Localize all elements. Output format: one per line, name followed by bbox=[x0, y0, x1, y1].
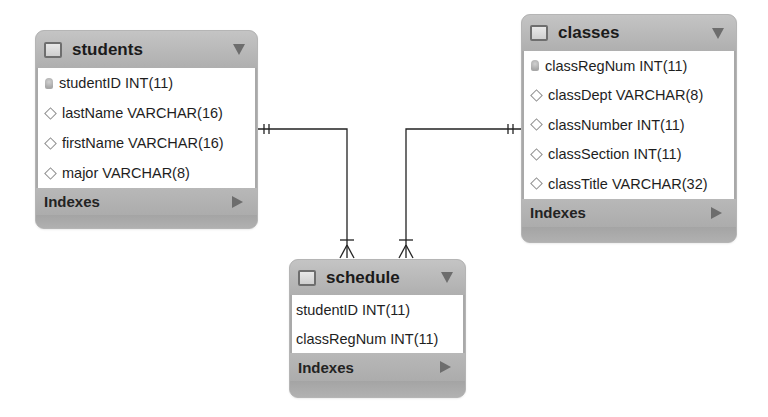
column-row[interactable]: lastName VARCHAR(16) bbox=[38, 98, 255, 128]
table-students[interactable]: students studentID INT(11) lastName VARC… bbox=[35, 30, 258, 229]
column-row[interactable]: studentID INT(11) bbox=[38, 68, 255, 98]
column-diamond-icon bbox=[530, 148, 543, 161]
column-row[interactable]: firstName VARCHAR(16) bbox=[38, 128, 255, 158]
column-diamond-icon bbox=[44, 137, 57, 150]
relationship-students-schedule bbox=[258, 129, 347, 258]
column-label: classDept VARCHAR(8) bbox=[548, 87, 703, 103]
table-classes[interactable]: classes classRegNum INT(11) classDept VA… bbox=[521, 14, 737, 243]
table-icon bbox=[44, 42, 62, 58]
expand-triangle-icon[interactable] bbox=[232, 196, 243, 208]
column-label: classRegNum INT(11) bbox=[545, 58, 687, 74]
column-row[interactable]: classSection INT(11) bbox=[524, 140, 734, 170]
primary-key-icon bbox=[45, 78, 53, 89]
relationship-classes-schedule bbox=[406, 129, 521, 258]
indexes-label: Indexes bbox=[522, 204, 711, 221]
collapse-triangle-icon[interactable] bbox=[712, 28, 724, 39]
primary-key-icon bbox=[531, 60, 539, 71]
column-diamond-icon bbox=[530, 118, 543, 131]
column-label: firstName VARCHAR(16) bbox=[62, 135, 224, 151]
table-icon bbox=[530, 25, 548, 41]
column-diamond-icon bbox=[44, 167, 57, 180]
column-row[interactable]: studentID INT(11) bbox=[292, 295, 463, 324]
column-diamond-icon bbox=[530, 177, 543, 190]
indexes-label: Indexes bbox=[290, 359, 440, 376]
table-title: schedule bbox=[326, 268, 441, 288]
column-row[interactable]: classRegNum INT(11) bbox=[292, 324, 463, 353]
column-diamond-icon bbox=[530, 89, 543, 102]
column-label: lastName VARCHAR(16) bbox=[62, 105, 223, 121]
table-header[interactable]: classes bbox=[522, 15, 736, 51]
column-label: classTitle VARCHAR(32) bbox=[548, 176, 708, 192]
column-label: classRegNum INT(11) bbox=[296, 331, 438, 347]
column-label: classNumber INT(11) bbox=[548, 117, 685, 133]
indexes-section[interactable]: Indexes bbox=[522, 199, 736, 227]
expand-triangle-icon[interactable] bbox=[440, 361, 451, 373]
collapse-triangle-icon[interactable] bbox=[233, 44, 245, 55]
table-title: students bbox=[72, 40, 233, 60]
column-row[interactable]: classDept VARCHAR(8) bbox=[524, 81, 734, 111]
column-diamond-icon bbox=[44, 107, 57, 120]
column-row[interactable]: classTitle VARCHAR(32) bbox=[524, 169, 734, 199]
table-footer bbox=[36, 215, 257, 229]
table-footer bbox=[290, 381, 465, 398]
column-label: studentID INT(11) bbox=[59, 75, 173, 91]
table-title: classes bbox=[558, 23, 712, 43]
column-list: studentID INT(11) classRegNum INT(11) bbox=[292, 295, 463, 353]
indexes-section[interactable]: Indexes bbox=[36, 188, 257, 215]
column-row[interactable]: classNumber INT(11) bbox=[524, 110, 734, 140]
expand-triangle-icon[interactable] bbox=[711, 207, 722, 219]
column-row[interactable]: major VARCHAR(8) bbox=[38, 158, 255, 188]
table-footer bbox=[522, 227, 736, 244]
table-schedule[interactable]: schedule studentID INT(11) classRegNum I… bbox=[289, 259, 466, 398]
table-header[interactable]: students bbox=[36, 31, 257, 68]
indexes-label: Indexes bbox=[36, 193, 232, 210]
column-label: classSection INT(11) bbox=[548, 146, 682, 162]
column-label: studentID INT(11) bbox=[296, 302, 410, 318]
column-list: studentID INT(11) lastName VARCHAR(16) f… bbox=[38, 68, 255, 188]
collapse-triangle-icon[interactable] bbox=[441, 272, 453, 283]
indexes-section[interactable]: Indexes bbox=[290, 353, 465, 381]
column-label: major VARCHAR(8) bbox=[62, 165, 190, 181]
table-header[interactable]: schedule bbox=[290, 260, 465, 295]
column-list: classRegNum INT(11) classDept VARCHAR(8)… bbox=[524, 51, 734, 199]
column-row[interactable]: classRegNum INT(11) bbox=[524, 51, 734, 81]
table-icon bbox=[298, 270, 316, 286]
